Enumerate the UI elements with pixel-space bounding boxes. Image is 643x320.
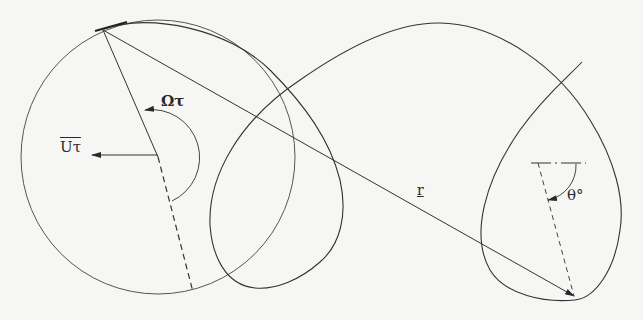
position-vector bbox=[103, 30, 574, 296]
position-vector-label: r bbox=[417, 183, 424, 197]
translation-label: Uτ bbox=[60, 140, 81, 155]
translation-symbol: Uτ bbox=[60, 138, 81, 156]
angle-line bbox=[538, 163, 574, 296]
top-marker bbox=[95, 22, 127, 31]
radius-line bbox=[103, 30, 158, 157]
rotation-label: Ωτ bbox=[161, 94, 184, 109]
angle-label: θ° bbox=[567, 188, 584, 203]
trochoid-diagram bbox=[0, 0, 643, 320]
trochoid-curve bbox=[104, 23, 621, 301]
radius-extension bbox=[158, 157, 193, 292]
